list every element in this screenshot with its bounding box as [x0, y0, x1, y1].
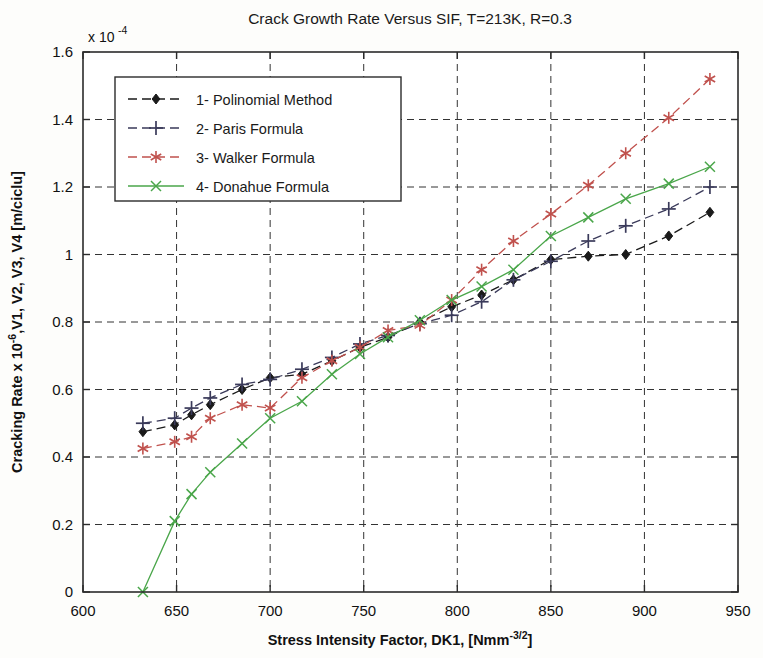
x-tick-label: 750: [351, 602, 376, 619]
x-tick-label: 950: [725, 602, 750, 619]
y-axis-label-tail: ,V1, V2, V3, V4 [m/ciclu]: [9, 171, 25, 334]
legend-label-1[interactable]: 1- Polinomial Method: [196, 92, 332, 108]
legend-label-4[interactable]: 4- Donahue Formula: [196, 179, 330, 195]
y-tick-label: 1.2: [52, 178, 73, 195]
figure-canvas: 600650700750800850900950 00.20.40.60.811…: [0, 0, 763, 658]
y-axis-multiplier-base: x 10: [88, 29, 115, 45]
y-axis-label-exponent: -6: [6, 334, 18, 343]
x-tick-label: 700: [258, 602, 283, 619]
legend[interactable]: 1- Polinomial Method2- Paris Formula3- W…: [115, 77, 401, 201]
y-tick-label: 1: [65, 246, 73, 263]
x-tick-label: 600: [70, 602, 95, 619]
x-tick-labels: 600650700750800850900950: [70, 602, 750, 619]
y-tick-label: 0.2: [52, 516, 73, 533]
y-tick-label: 0.8: [52, 313, 73, 330]
y-tick-label: 0.6: [52, 381, 73, 398]
legend-label-2[interactable]: 2- Paris Formula: [196, 121, 304, 137]
x-axis-label-main: Stress Intensity Factor, DK1, [Nmm: [268, 632, 510, 648]
x-tick-label: 850: [538, 602, 563, 619]
legend-label-3[interactable]: 3- Walker Formula: [196, 150, 316, 166]
chart-title: Crack Growth Rate Versus SIF, T=213K, R=…: [248, 10, 572, 27]
x-axis-label: Stress Intensity Factor, DK1, [Nmm-3/2]: [268, 629, 533, 648]
x-axis-label-exponent: -3/2: [509, 629, 527, 641]
y-tick-label: 0.4: [52, 448, 73, 465]
x-tick-label: 800: [445, 602, 470, 619]
y-axis-multiplier-exponent: -4: [118, 24, 127, 36]
y-tick-label: 1.6: [52, 43, 73, 60]
y-axis-label-main: Cracking Rate x 10: [9, 343, 25, 473]
x-tick-label: 900: [632, 602, 657, 619]
y-tick-label: 1.4: [52, 111, 73, 128]
x-axis-label-tail: ]: [528, 632, 533, 648]
y-tick-label: 0: [65, 583, 73, 600]
chart-plot: 600650700750800850900950 00.20.40.60.811…: [0, 0, 763, 658]
x-tick-label: 650: [164, 602, 189, 619]
y-tick-labels: 00.20.40.60.811.21.41.6: [52, 43, 73, 600]
y-axis-label: Cracking Rate x 10-6,V1, V2, V3, V4 [m/c…: [6, 171, 25, 473]
